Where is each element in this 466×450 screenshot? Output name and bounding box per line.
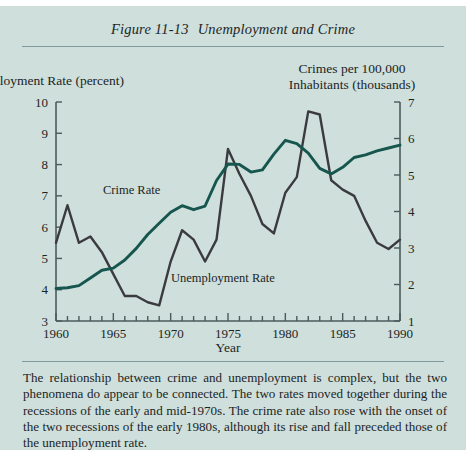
right-tick-label: 2 <box>408 277 415 292</box>
figure-number: Figure 11-13 <box>111 21 189 37</box>
x-tick-label: 1960 <box>43 326 69 341</box>
x-tick-label: 1965 <box>100 326 126 341</box>
figure-caption: The relationship between crime and unemp… <box>23 370 447 450</box>
x-tick-label: 1990 <box>387 326 413 341</box>
unemployment-rate-inline-label: Unemployment Rate <box>171 271 275 285</box>
left-axis-title: Unemployment Rate (percent) <box>0 73 124 88</box>
left-tick-label: 10 <box>35 95 48 110</box>
figure-title-text: Unemployment and Crime <box>198 21 355 37</box>
right-tick-label: 6 <box>408 131 415 146</box>
figure-panel: Figure 11-13Unemployment and Crime 34567… <box>0 6 466 450</box>
right-axis-title-line2: Inhabitants (thousands) <box>289 77 415 92</box>
x-axis-ticks <box>56 313 400 321</box>
line-chart: 345678910 1234567 1960196519701975198019… <box>0 52 466 357</box>
x-tick-label: 1970 <box>158 326 184 341</box>
x-tick-label: 1985 <box>330 326 356 341</box>
left-tick-label: 7 <box>42 188 49 203</box>
crime-rate-line <box>56 140 400 288</box>
right-axis-title-line1: Crimes per 100,000 <box>299 61 406 76</box>
left-tick-label: 8 <box>42 157 49 172</box>
right-tick-label: 4 <box>408 204 415 219</box>
x-axis-title: Year <box>216 340 241 355</box>
axes-group <box>56 102 400 321</box>
right-tick-label: 7 <box>408 95 415 110</box>
right-tick-label: 3 <box>408 241 415 256</box>
left-tick-label: 6 <box>42 220 49 235</box>
figure-title-bar: Figure 11-13Unemployment and Crime <box>0 20 466 38</box>
x-tick-label: 1975 <box>215 326 241 341</box>
right-axis-ticks: 1234567 <box>394 95 415 329</box>
right-tick-label: 5 <box>408 168 415 183</box>
page-title: Figure 11-13Unemployment and Crime <box>111 21 355 37</box>
divider-bottom <box>22 361 444 362</box>
left-tick-label: 9 <box>42 126 49 141</box>
divider-top <box>22 46 444 47</box>
left-axis-ticks: 345678910 <box>35 95 62 329</box>
left-tick-label: 5 <box>42 251 49 266</box>
left-tick-label: 4 <box>42 282 49 297</box>
x-tick-label: 1980 <box>272 326 298 341</box>
chart-area: 345678910 1234567 1960196519701975198019… <box>0 52 466 357</box>
crime-rate-inline-label: Crime Rate <box>103 183 161 197</box>
x-axis-tick-labels: 1960196519701975198019851990 <box>43 326 413 341</box>
